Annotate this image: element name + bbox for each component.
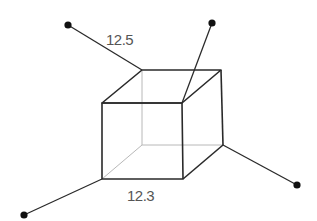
connectors (24, 23, 297, 215)
dot-right (293, 181, 300, 188)
label-12-3: 12.3 (127, 187, 154, 204)
right-bottom-edge (183, 145, 223, 179)
endpoint-dots (20, 19, 300, 218)
connector-bottom-left (24, 179, 102, 215)
hidden-edge-depth (102, 145, 142, 179)
top-face (102, 70, 221, 103)
label-12-5: 12.5 (106, 31, 133, 48)
connector-right (223, 145, 297, 185)
dot-bottom-left (20, 211, 27, 218)
dot-top-right (208, 19, 215, 26)
cube-diagram: 12.5 12.3 (0, 0, 317, 221)
visible-edges (102, 70, 223, 179)
right-back-edge (221, 70, 223, 145)
hidden-edges (102, 70, 223, 179)
dot-top-left (64, 21, 71, 28)
